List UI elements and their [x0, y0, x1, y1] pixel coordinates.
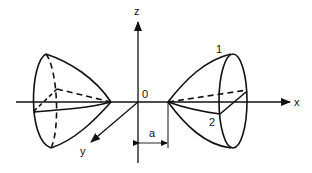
curve-label-2: 2	[209, 116, 215, 128]
x-axis-label: x	[294, 96, 300, 108]
curve-label-1: 1	[216, 43, 222, 55]
y-axis	[91, 102, 138, 142]
right-paraboloid	[168, 54, 247, 148]
y-axis-label: y	[80, 145, 86, 157]
origin-label: 0	[142, 88, 148, 100]
z-axis-label: z	[134, 5, 140, 17]
diagram-canvas: x z y 0 a 1 2	[0, 0, 312, 173]
left-paraboloid	[33, 54, 111, 148]
dimension-a-label: a	[149, 127, 156, 139]
dimension-a	[139, 102, 168, 148]
